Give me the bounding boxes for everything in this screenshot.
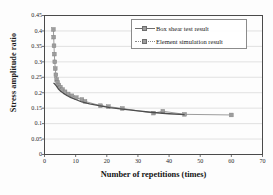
x-axis-tick-labels: 010203040506070 — [0, 158, 273, 168]
data-point-element-simulation — [51, 28, 55, 32]
x-tick-label: 10 — [66, 158, 86, 164]
legend-label-element-simulation: Element simulation result — [155, 38, 223, 45]
legend-label-box-shear-test: Box shear test result — [155, 25, 209, 32]
data-point-element-simulation — [229, 113, 233, 117]
chart-figure: Stress amplitude ratio 00.050.10.150.20.… — [0, 0, 273, 195]
x-tick-label: 0 — [35, 158, 55, 164]
legend-item-box-shear-test[interactable]: Box shear test result — [135, 22, 243, 35]
x-tick-label: 20 — [97, 158, 117, 164]
x-tick-label: 40 — [159, 158, 179, 164]
data-point-element-simulation — [52, 44, 56, 48]
data-point-element-simulation — [54, 73, 58, 77]
x-tick-label: 50 — [190, 158, 210, 164]
series-line-box-shear-test — [54, 83, 185, 115]
x-axis-title: Number of repetitions (times) — [44, 170, 263, 179]
legend-marker-element-simulation — [135, 36, 155, 47]
x-tick-label: 60 — [221, 158, 241, 164]
data-point-element-simulation — [52, 35, 56, 39]
data-point-element-simulation — [53, 67, 57, 71]
x-tick-label: 30 — [128, 158, 148, 164]
data-point-element-simulation — [53, 60, 57, 64]
chart-legend: Box shear test result Element simulation… — [131, 19, 247, 49]
x-tick-label: 70 — [253, 158, 273, 164]
data-point-element-simulation — [52, 52, 56, 56]
legend-marker-box-shear-test — [135, 23, 155, 34]
legend-item-element-simulation[interactable]: Element simulation result — [135, 35, 243, 48]
